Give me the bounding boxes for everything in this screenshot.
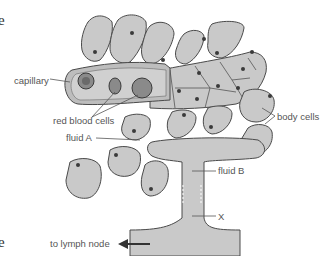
label-red-blood-cells: red blood cells [53,115,115,126]
capillary [65,62,170,104]
label-fluid-b: fluid B [218,165,244,176]
label-fluid-a: fluid A [66,132,93,143]
body-cells-top-row [81,15,244,64]
lymph-formation-diagram: e e [0,0,329,256]
label-capillary: capillary [14,75,49,86]
clipped-text-bottom: e [0,234,5,250]
label-body-cells: body cells [277,111,319,122]
lymph-vessel [130,138,265,256]
label-to-lymph-node: to lymph node [50,238,110,249]
label-x: X [218,211,225,222]
clipped-text-top: e [0,12,5,28]
